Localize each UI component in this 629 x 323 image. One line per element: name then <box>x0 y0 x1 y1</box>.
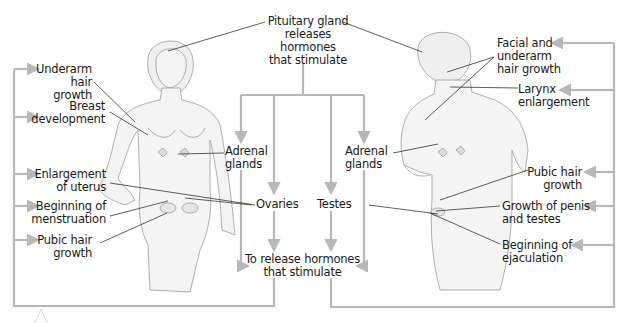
adrenal-glands-right-label: Adrenal glands <box>345 145 388 171</box>
label-line: of uterus <box>30 181 106 194</box>
female-breast-development-label: Breast development <box>30 100 105 126</box>
male-ejaculation-label: Beginning of ejaculation <box>502 239 572 265</box>
label-line: ejaculation <box>502 252 572 265</box>
watermark-icon <box>35 309 47 323</box>
label-line: development <box>30 113 105 126</box>
release-hormones-label: To release hormones that stimulate <box>245 253 360 279</box>
label-line: glands <box>345 158 388 171</box>
female-figure <box>99 41 235 292</box>
male-penis-testes-label: Growth of penis and testes <box>502 200 590 226</box>
female-enlargement-uterus-label: Enlargement of uterus <box>30 168 106 194</box>
male-facial-underarm-hair-label: Facial and underarm hair growth <box>497 37 561 76</box>
male-pubic-hair-label: Pubic hair growth <box>520 166 582 192</box>
ovaries-label: Ovaries <box>256 198 299 211</box>
label-line: hair growth <box>497 63 561 76</box>
label-line: growth <box>520 179 582 192</box>
adrenal-glands-left-label: Adrenal glands <box>225 145 268 171</box>
female-pubic-hair-label: Pubic hair growth <box>30 234 92 260</box>
female-menstruation-label: Beginning of menstruation <box>30 200 106 226</box>
label-line: that stimulate <box>258 54 358 67</box>
label-line: and testes <box>502 213 590 226</box>
pituitary-label: Pituitary gland releases hormones that s… <box>258 15 358 67</box>
female-underarm-hair-label: Underarm hair growth <box>30 63 92 102</box>
testes-label: Testes <box>317 198 352 211</box>
label-line: growth <box>30 247 92 260</box>
male-larynx-label: Larynx enlargement <box>518 83 589 109</box>
label-line: glands <box>225 158 268 171</box>
label-line: that stimulate <box>245 266 360 279</box>
label-line: menstruation <box>30 213 106 226</box>
label-line: enlargement <box>518 96 589 109</box>
